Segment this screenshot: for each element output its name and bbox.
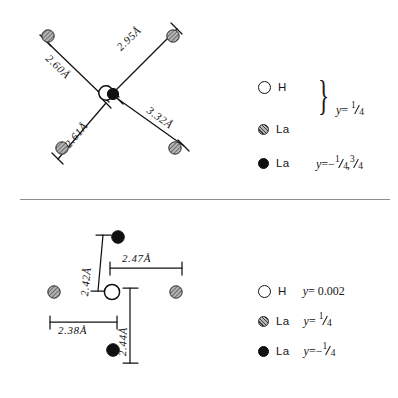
filled-circle-icon bbox=[258, 158, 269, 169]
legend-species-la-hatched: La bbox=[276, 123, 290, 135]
top-panel: 2.95Å 2.60Å 3.32Å 2.61Å H La } y= bbox=[0, 0, 398, 200]
dim-label-2-44: 2.44Å bbox=[116, 327, 129, 356]
dim-label-2-38: 2.38Å bbox=[58, 324, 87, 336]
legend-y-value-braced: y= 1 4 bbox=[336, 102, 363, 118]
open-circle-icon bbox=[258, 81, 271, 94]
legend-species-h-bottom: H bbox=[278, 285, 287, 297]
atom-la-hatched-upper-right bbox=[167, 30, 179, 42]
legend-y-value-filled: y=− 1 4 , 3 4 bbox=[316, 156, 362, 172]
legend-species-la-filled: La bbox=[276, 157, 290, 169]
legend-species-la-filled-bottom: La bbox=[276, 345, 290, 357]
legend-row-h-open-bottom: H y= 0.002 bbox=[258, 282, 345, 300]
bottom-panel: 2.42Å 2.47Å 2.38Å 2.44Å H y= 0.002 La bbox=[0, 200, 398, 398]
legend-row-la-hatched-bottom: La y= 1 4 bbox=[258, 312, 331, 330]
bottom-legend: H y= 0.002 La y= 1 4 bbox=[258, 282, 398, 367]
atom-la-filled-top bbox=[112, 231, 125, 244]
legend-species-la-hatched-bottom: La bbox=[276, 315, 290, 327]
filled-circle-icon bbox=[258, 346, 269, 357]
hatched-circle-icon bbox=[258, 124, 269, 135]
legend-species-h: H bbox=[278, 81, 287, 93]
dim-label-2-47: 2.47Å bbox=[122, 252, 151, 264]
fraction-one-quarter-b: 1 4 bbox=[319, 313, 331, 326]
atom-la-filled-center bbox=[107, 88, 118, 99]
dim-line-2-42 bbox=[98, 235, 103, 291]
atom-la-hatched-right bbox=[170, 286, 182, 298]
legend-row-h-open: H bbox=[258, 78, 287, 96]
legend-row-la-filled-bottom: La y=− 1 4 bbox=[258, 342, 334, 360]
legend-row-la-hatched: La bbox=[258, 120, 290, 138]
fraction-one-quarter-neg: 1 4 bbox=[335, 156, 347, 169]
legend-y-value-la-filled: y=− 1 4 bbox=[304, 343, 335, 359]
brace-icon: } bbox=[318, 74, 329, 116]
legend-y-value-la-hatched: y= 1 4 bbox=[304, 313, 331, 329]
fraction-one-quarter: 1 4 bbox=[351, 102, 363, 115]
figure-root: 2.95Å 2.60Å 3.32Å 2.61Å H La } y= bbox=[0, 0, 398, 398]
atom-h-open-center-bottom bbox=[104, 284, 119, 299]
legend-y-value-h: y= 0.002 bbox=[303, 284, 345, 299]
atom-la-hatched-left bbox=[48, 286, 60, 298]
atom-la-hatched-upper-left bbox=[42, 30, 54, 42]
legend-row-la-filled: La bbox=[258, 154, 290, 172]
top-legend: H La } y= 1 4 La bbox=[258, 78, 396, 168]
open-circle-icon bbox=[258, 285, 271, 298]
hatched-circle-icon bbox=[258, 316, 269, 327]
fraction-one-quarter-neg-b: 1 4 bbox=[322, 343, 334, 356]
fraction-three-quarters: 3 4 bbox=[350, 156, 362, 169]
atom-la-hatched-lower-right bbox=[169, 142, 181, 154]
